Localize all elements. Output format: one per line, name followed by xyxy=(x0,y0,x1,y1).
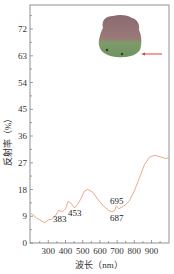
reflectance-chart: 0 9 18 27 36 45 54 63 72 300 400 500 600… xyxy=(0,0,174,274)
x-tick-labels: 300 400 500 600 700 800 900 xyxy=(42,246,159,256)
annotation-695: 695 xyxy=(110,196,124,206)
y-tick-18: 18 xyxy=(18,185,28,195)
y-tick-0: 0 xyxy=(23,238,28,248)
y-axis xyxy=(30,16,33,243)
y-tick-45: 45 xyxy=(18,104,28,114)
y-tick-9: 9 xyxy=(23,211,28,221)
x-tick-800: 800 xyxy=(128,246,142,256)
x-tick-500: 500 xyxy=(76,246,90,256)
annotation-383: 383 xyxy=(53,214,67,224)
x-axis-title: 波长（nm） xyxy=(75,259,123,270)
x-tick-300: 300 xyxy=(42,246,56,256)
y-tick-27: 27 xyxy=(18,158,28,168)
x-axis xyxy=(40,240,160,243)
y-tick-63: 63 xyxy=(18,51,28,61)
x-tick-600: 600 xyxy=(93,246,107,256)
annotation-687: 687 xyxy=(110,213,124,223)
x-tick-400: 400 xyxy=(59,246,73,256)
y-tick-54: 54 xyxy=(18,78,28,88)
y-tick-labels: 0 9 18 27 36 45 54 63 72 xyxy=(18,24,28,248)
reflectance-curve xyxy=(31,155,169,222)
y-tick-36: 36 xyxy=(18,131,28,141)
y-axis-title: 反射率（%） xyxy=(2,114,13,167)
x-tick-900: 900 xyxy=(145,246,159,256)
x-tick-700: 700 xyxy=(110,246,124,256)
y-tick-72: 72 xyxy=(18,24,27,34)
stone-sample-image xyxy=(99,15,162,57)
annotation-453: 453 xyxy=(68,208,82,218)
